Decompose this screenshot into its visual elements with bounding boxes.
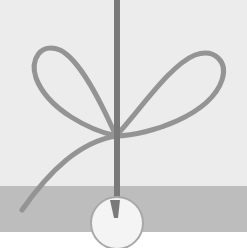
bow-string-illustration: [0, 0, 247, 248]
background-panel: [0, 0, 247, 186]
illustration: [0, 0, 247, 248]
